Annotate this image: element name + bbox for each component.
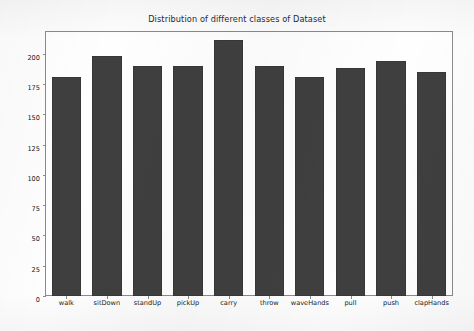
y-tick-label: 0 bbox=[36, 296, 46, 304]
x-axis-labels: walksitDownstandUppickUpcarrythrowwaveHa… bbox=[46, 299, 452, 307]
bar-slot bbox=[208, 32, 249, 296]
y-tick-mark bbox=[43, 266, 46, 267]
x-tick-mark bbox=[188, 296, 189, 299]
y-tick-mark bbox=[43, 114, 46, 115]
y-tick-label: 75 bbox=[32, 205, 46, 213]
bar-carry[interactable] bbox=[214, 40, 243, 296]
x-tick-mark bbox=[269, 296, 270, 299]
bar-throw[interactable] bbox=[255, 66, 284, 296]
x-tick-label-throw: throw bbox=[249, 299, 290, 307]
plot-area: 0255075100125150175200 bbox=[46, 32, 452, 296]
x-tick-mark bbox=[310, 296, 311, 299]
bar-series bbox=[46, 32, 452, 296]
y-tick-label: 50 bbox=[32, 235, 46, 243]
bar-slot bbox=[330, 32, 371, 296]
bar-waveHands[interactable] bbox=[295, 77, 324, 296]
y-tick-mark bbox=[43, 84, 46, 85]
bar-clapHands[interactable] bbox=[417, 72, 446, 296]
bar-pickUp[interactable] bbox=[173, 66, 202, 296]
y-tick-mark bbox=[43, 296, 46, 297]
y-tick-mark bbox=[43, 54, 46, 55]
x-tick-label-sitDown: sitDown bbox=[87, 299, 128, 307]
y-tick-mark bbox=[43, 175, 46, 176]
x-tick-mark bbox=[148, 296, 149, 299]
bar-slot bbox=[127, 32, 168, 296]
x-tick-mark bbox=[432, 296, 433, 299]
y-tick-label: 200 bbox=[27, 54, 46, 62]
x-tick-label-waveHands: waveHands bbox=[290, 299, 331, 307]
x-tick-label-push: push bbox=[371, 299, 412, 307]
x-tick-label-pickUp: pickUp bbox=[168, 299, 209, 307]
x-tick-mark bbox=[391, 296, 392, 299]
y-tick-label: 125 bbox=[27, 145, 46, 153]
bar-slot bbox=[290, 32, 331, 296]
bar-standUp[interactable] bbox=[133, 66, 162, 296]
x-tick-mark bbox=[66, 296, 67, 299]
x-tick-label-walk: walk bbox=[46, 299, 87, 307]
y-tick-mark bbox=[43, 205, 46, 206]
y-tick-mark bbox=[43, 145, 46, 146]
y-tick-mark bbox=[43, 235, 46, 236]
y-tick-label: 175 bbox=[27, 84, 46, 92]
x-tick-label-pull: pull bbox=[330, 299, 371, 307]
bar-slot bbox=[168, 32, 209, 296]
x-tick-label-carry: carry bbox=[208, 299, 249, 307]
x-tick-mark bbox=[229, 296, 230, 299]
chart-title: Distribution of different classes of Dat… bbox=[0, 14, 474, 24]
chart-figure: Distribution of different classes of Dat… bbox=[0, 0, 474, 331]
bar-push[interactable] bbox=[376, 61, 405, 296]
y-tick-label: 150 bbox=[27, 114, 46, 122]
bar-slot bbox=[87, 32, 128, 296]
bar-walk[interactable] bbox=[52, 77, 81, 296]
y-tick-label: 25 bbox=[32, 266, 46, 274]
bar-slot bbox=[411, 32, 452, 296]
y-tick-label: 100 bbox=[27, 175, 46, 183]
x-tick-mark bbox=[107, 296, 108, 299]
x-tick-mark bbox=[351, 296, 352, 299]
bar-sitDown[interactable] bbox=[92, 56, 121, 296]
bar-pull[interactable] bbox=[336, 68, 365, 296]
bar-slot bbox=[46, 32, 87, 296]
x-tick-label-clapHands: clapHands bbox=[411, 299, 452, 307]
bar-slot bbox=[249, 32, 290, 296]
x-tick-label-standUp: standUp bbox=[127, 299, 168, 307]
bar-slot bbox=[371, 32, 412, 296]
